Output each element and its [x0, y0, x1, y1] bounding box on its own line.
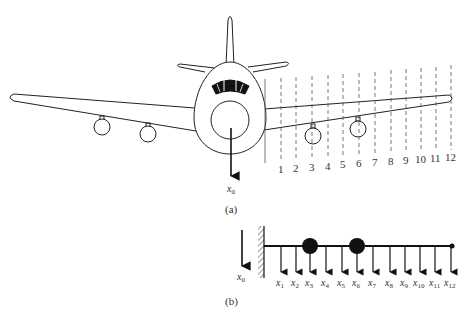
section-label: 5 [340, 158, 346, 170]
section-label: 1 [278, 163, 284, 175]
fuselage-nose [194, 62, 266, 154]
beam-tip [450, 244, 455, 249]
section-label: 2 [293, 162, 299, 174]
vertical-fin [226, 17, 234, 67]
node-label: x1 [275, 277, 284, 290]
section-label: 10 [415, 153, 427, 165]
section-label: 8 [388, 155, 394, 167]
node-label: x6 [351, 277, 360, 290]
node-label: x5 [336, 277, 345, 290]
section-label: 9 [403, 154, 409, 166]
fixed-wall-hatch [258, 226, 264, 278]
section-label: 6 [356, 157, 362, 169]
airplane-wing-model-figure: x0 1 2 3 4 5 6 7 8 9 10 11 12 (a) x0 [0, 0, 468, 322]
lumped-mass-3 [302, 238, 318, 254]
node-label: x9 [399, 277, 408, 290]
base-label-a: x0 [226, 183, 235, 196]
node-label: x2 [290, 277, 299, 290]
caption-b: (b) [225, 295, 238, 308]
left-engine-inner [140, 123, 156, 142]
right-stabilizer [248, 62, 289, 72]
node-label: x10 [412, 277, 425, 290]
node-label: x8 [384, 277, 393, 290]
node-labels: x1 x2 x3 x4 x5 x6 x7 x8 x9 x10 x11 x12 [275, 277, 456, 290]
lumped-mass-6 [349, 238, 365, 254]
section-number-labels: 1 2 3 4 5 6 7 8 9 10 11 12 [278, 151, 456, 175]
section-label: 3 [309, 161, 315, 173]
section-label: 4 [325, 160, 331, 172]
section-label: 11 [430, 152, 441, 164]
node-label: x11 [428, 277, 441, 290]
right-engine-outer [350, 117, 366, 137]
section-label: 7 [372, 156, 378, 168]
node-label: x12 [443, 277, 456, 290]
right-engine-inner [305, 124, 321, 144]
node-label: x3 [304, 277, 313, 290]
left-stabilizer [178, 64, 216, 72]
section-label: 12 [445, 151, 456, 163]
base-label-b: x0 [236, 271, 245, 284]
node-label: x4 [320, 277, 329, 290]
node-label: x7 [367, 277, 376, 290]
caption-a: (a) [225, 203, 238, 216]
left-engine-outer [94, 116, 110, 135]
